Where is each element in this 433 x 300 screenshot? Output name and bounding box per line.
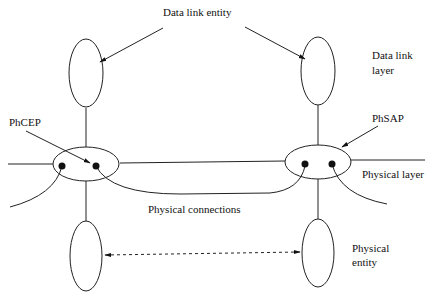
label-physical-connections: Physical connections <box>148 203 241 215</box>
endpoint-dot-right-2 <box>329 161 336 168</box>
label-physical-layer: Physical layer <box>362 168 424 180</box>
physical-entity-left <box>70 221 102 291</box>
label-phsap: PhSAP <box>372 112 404 124</box>
label-phcep: PhCEP <box>9 116 41 128</box>
physical-connection-curve <box>96 166 305 194</box>
label-data-link-entity: Data link entity <box>163 6 232 18</box>
endpoint-dot-left-2 <box>93 163 100 170</box>
arrow-dl-entity-right <box>245 27 305 59</box>
label-data-link-layer-2: layer <box>372 64 394 76</box>
endpoint-dot-left-1 <box>59 163 66 170</box>
osi-physical-layer-diagram: Data link entity Data link layer PhCEP P… <box>0 0 433 300</box>
label-physical-entity-1: Physical <box>352 242 389 254</box>
endpoint-dot-right-1 <box>302 161 309 168</box>
arrow-dl-entity-left <box>100 28 163 62</box>
physical-entity-right <box>302 219 334 287</box>
label-physical-entity-2: entity <box>352 256 378 268</box>
arrow-phsap <box>342 126 378 147</box>
physical-layer-line-middle <box>120 161 285 163</box>
label-data-link-layer-1: Data link <box>372 49 413 61</box>
curve-left-outer <box>10 166 62 207</box>
physical-layer-boundary-right <box>285 145 351 179</box>
data-link-entity-right <box>301 37 335 105</box>
data-link-entity-left <box>69 39 103 107</box>
arrow-physical-peer-dashed <box>105 252 300 255</box>
